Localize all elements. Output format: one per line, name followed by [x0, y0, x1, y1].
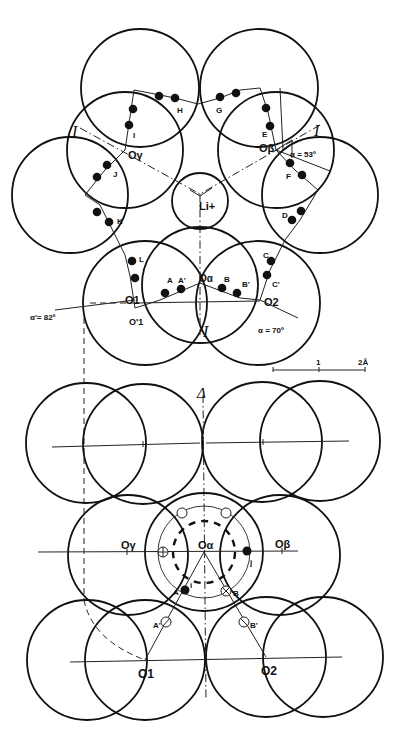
- atom-K2: [105, 218, 114, 227]
- label-B-prime-bottom: B': [250, 621, 258, 630]
- atom-J2: [93, 173, 102, 182]
- plane-label-bottom: I: [202, 323, 209, 340]
- scale-tick-1: 1: [316, 358, 321, 367]
- label-G: G: [216, 106, 222, 115]
- label-O2-bottom: O2: [261, 664, 277, 678]
- atom-G2: [232, 89, 241, 98]
- sphere-row1-far-left: [26, 383, 146, 503]
- label-A-bottom: A: [173, 588, 179, 597]
- atom-J1: [103, 161, 112, 170]
- row1-axis-right: [206, 441, 349, 443]
- label-O-alpha-bottom: Oα: [198, 539, 214, 551]
- atom-G1: [216, 93, 225, 102]
- atom-D2: [288, 216, 297, 225]
- atom-A-bottom: [181, 586, 190, 595]
- label-O-gamma-bottom: Oγ: [121, 539, 137, 551]
- bond-alpha-O2: [204, 552, 266, 657]
- bottom-view: Δ Oγ Oα Oβ A A' B B' i j O1 O2: [26, 381, 383, 720]
- angle-label-82: α'= 82º: [30, 313, 56, 322]
- atoms: [93, 89, 307, 298]
- sphere-O2: [196, 241, 320, 365]
- molecular-packing-diagram: I I I Oγ Oβ Li+ Oα O1 O'1 O2 H G I E J F…: [0, 0, 406, 749]
- label-O1: O1: [125, 294, 140, 306]
- label-E: F: [286, 172, 291, 181]
- atom-I1: [129, 105, 138, 114]
- angle53-vertical: [280, 88, 283, 150]
- atom-B: [218, 284, 227, 293]
- label-K: K: [117, 217, 123, 226]
- angle-label-70: α = 70º: [258, 326, 284, 335]
- label-C: C: [263, 251, 269, 260]
- atom-E2: [298, 171, 307, 180]
- label-A-prime-bottom: A': [153, 621, 161, 630]
- delta-label: Δ: [196, 385, 206, 401]
- label-A-prime: A': [178, 276, 186, 285]
- angle-label-53: α = 53º: [290, 150, 316, 159]
- sphere-row3-far-left: [27, 600, 147, 720]
- sphere-top-left: [81, 29, 199, 147]
- atom-j: [243, 547, 252, 556]
- label-C-prime: C': [272, 280, 280, 289]
- label-I: I: [133, 131, 135, 140]
- label-B-prime: B': [242, 280, 250, 289]
- scale-bar: 1 2Å: [273, 358, 368, 372]
- atom-C-prime: [263, 271, 272, 280]
- atom-L1: [128, 257, 137, 266]
- label-J: J: [113, 170, 117, 179]
- scale-tick-2: 2Å: [358, 358, 368, 367]
- label-O-beta: Oβ: [259, 142, 275, 154]
- atom-H2: [171, 94, 180, 103]
- label-O1-bottom: O1: [138, 667, 154, 681]
- open-atom-2: [221, 508, 231, 518]
- open-atom-1: [177, 508, 187, 518]
- sphere-mid-left: [12, 137, 128, 253]
- atom-K1: [93, 208, 102, 217]
- atom-E1: [286, 159, 295, 168]
- label-lithium: Li+: [199, 200, 215, 212]
- label-i: i: [190, 581, 192, 590]
- angle82-arm: [55, 300, 135, 310]
- atom-F2: [266, 122, 275, 131]
- atom-D1: [297, 207, 306, 216]
- row1-axis-left: [52, 443, 200, 447]
- label-O1-prime: O'1: [129, 317, 143, 327]
- label-O2: O2: [264, 296, 279, 308]
- atom-A: [161, 289, 170, 298]
- label-O-alpha: Oα: [199, 273, 214, 284]
- atom-B-prime: [233, 289, 242, 298]
- plane-label-left: I: [71, 123, 78, 140]
- label-H: H: [177, 106, 183, 115]
- label-B: B: [224, 275, 230, 284]
- atom-I2: [125, 121, 134, 130]
- atom-A-prime: [177, 285, 186, 294]
- label-A: A: [167, 276, 173, 285]
- label-B-bottom: B: [233, 589, 239, 598]
- sphere-mid-right: [262, 137, 378, 253]
- atom-L2: [131, 274, 140, 283]
- plane-label-right: I: [313, 122, 320, 139]
- label-O-gamma: Oγ: [128, 149, 144, 161]
- atom-F1: [262, 104, 271, 113]
- label-D: D: [282, 211, 288, 220]
- atom-H1: [155, 92, 164, 101]
- label-L: L: [139, 255, 144, 264]
- label-F: E: [262, 130, 268, 139]
- sphere-row2-left: [68, 495, 188, 615]
- label-O-beta-bottom: Oβ: [275, 538, 291, 550]
- bond-alpha-O1: [145, 552, 204, 660]
- label-j: j: [249, 558, 252, 567]
